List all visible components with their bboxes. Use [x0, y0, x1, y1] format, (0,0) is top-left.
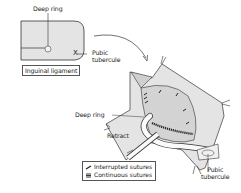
surgical-diagram: Deep ring X Pubic tubercule Inguinal lig…: [0, 0, 241, 193]
inset-deep-ring-label: Deep ring: [33, 5, 63, 12]
legend-item-continuous: Continuous sutures: [85, 171, 152, 179]
main-pubic-label-line1: Pubic: [201, 166, 229, 173]
inset-pubic-label-line1: Pubic: [92, 49, 120, 56]
inset-pubic-label-line2: tubercule: [92, 56, 120, 63]
interrupted-suture-icon: [85, 165, 92, 170]
continuous-suture-icon: [85, 173, 92, 178]
main-pubic-tubercule-label: Pubic tubercule: [201, 166, 229, 180]
main-deep-ring-label: Deep ring: [75, 111, 105, 118]
inset-pubic-tubercule-label: Pubic tubercule: [92, 49, 120, 63]
main-surgical-view: [104, 56, 230, 174]
inset-pubic-tubercule-marker: X: [73, 49, 78, 57]
legend-item-interrupted: Interrupted sutures: [85, 163, 152, 171]
legend-label-continuous: Continuous sutures: [94, 171, 152, 179]
inguinal-ligament-label: Inguinal ligament: [22, 65, 80, 76]
retract-label: Retract: [107, 132, 129, 139]
legend-label-interrupted: Interrupted sutures: [94, 163, 152, 171]
main-pubic-label-line2: tubercule: [201, 173, 229, 180]
legend: Interrupted sutures Continuous sutures: [82, 161, 156, 181]
deep-ring-marker: [45, 46, 51, 52]
